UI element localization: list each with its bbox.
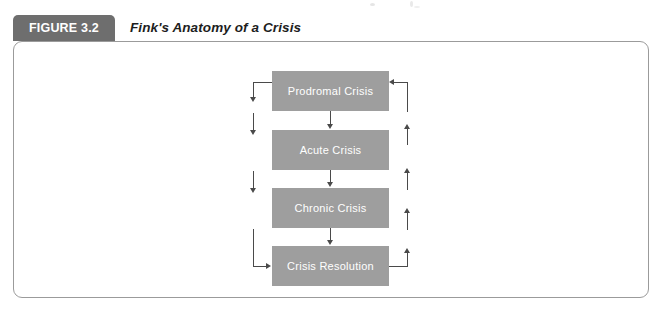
edge-right-return-segment-2 [407,212,408,230]
edge-right-return-bottom-stub [389,266,407,267]
flow-node-label: Crisis Resolution [272,260,389,272]
edge-prodromal-to-acute-arrowhead [327,124,333,129]
edge-right-return-segment-3 [407,172,408,190]
edge-left-return-arrowhead-1 [250,97,256,102]
flow-node-acute-crisis: Acute Crisis [272,130,389,170]
flow-node-chronic-crisis: Chronic Crisis [272,188,389,228]
edge-left-return-arrowhead-into-resolution [266,263,271,269]
flow-node-label: Acute Crisis [272,144,389,156]
edge-left-return-segment-3 [253,171,254,189]
edge-right-return-arrowhead-3 [404,168,410,173]
edge-chronic-to-resolution-arrowhead [327,240,333,245]
edge-acute-to-chronic-arrowhead [327,182,333,187]
flow-node-label: Prodromal Crisis [272,85,389,97]
edge-left-return-segment-4 [253,229,254,267]
edge-right-return-arrowhead-1 [404,248,410,253]
edge-left-return-segment-2 [253,113,254,131]
edge-right-return-top-elbow [394,82,408,83]
edge-left-return-top-stub [253,82,272,83]
edge-prodromal-to-acute-line [330,111,331,125]
diagram-canvas: Prodromal Crisis Acute Crisis Chronic Cr… [0,0,668,312]
edge-right-return-arrowhead-2 [404,208,410,213]
edge-right-return-arrowhead-into-prodromal [389,79,394,85]
edge-left-return-arrowhead-3 [250,188,256,193]
edge-right-return-top-riser [407,82,408,112]
edge-right-return-arrowhead-4 [404,124,410,129]
flow-node-prodromal-crisis: Prodromal Crisis [272,71,389,111]
edge-left-return-arrowhead-2 [250,130,256,135]
flow-node-crisis-resolution: Crisis Resolution [272,246,389,286]
edge-right-return-segment-4 [407,128,408,145]
edge-left-return-bottom-elbow [253,266,267,267]
edge-left-return-segment-1 [253,82,254,98]
edge-right-return-segment-1 [407,252,408,267]
flow-node-label: Chronic Crisis [272,202,389,214]
